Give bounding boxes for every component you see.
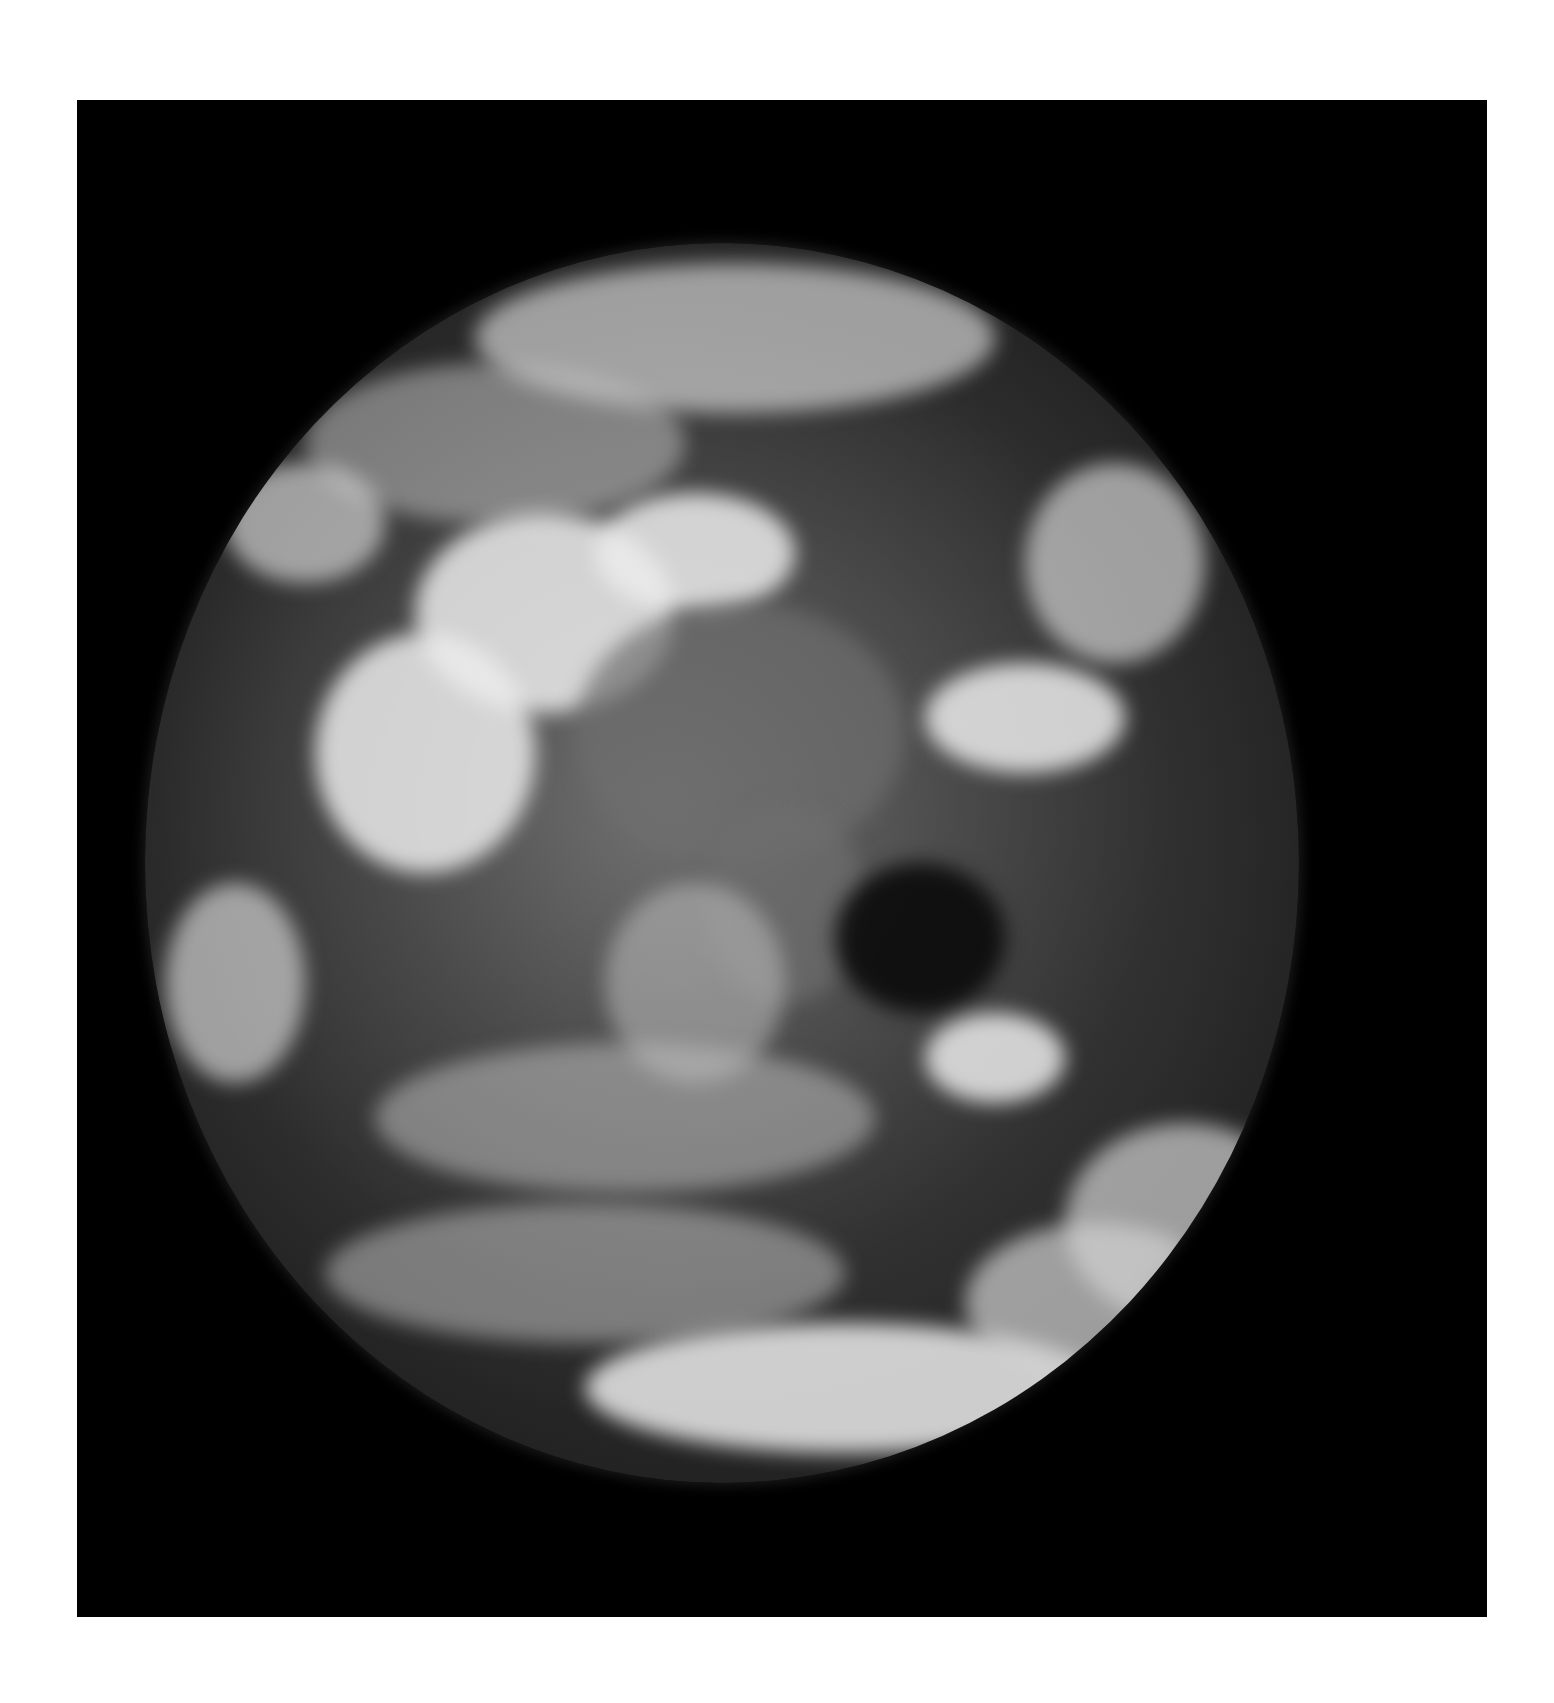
earth-globe	[145, 243, 1299, 1483]
black-space-background	[77, 100, 1487, 1617]
globe-limb-shading	[145, 243, 1299, 1483]
